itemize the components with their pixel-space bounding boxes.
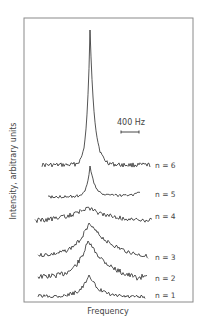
series-labels: n = 6n = 5n = 4n = 3n = 2n = 1 [155, 161, 176, 300]
trace-n5 [48, 166, 140, 198]
scale-bar-label: 400 Hz [117, 118, 145, 127]
series-label: n = 4 [155, 212, 176, 221]
x-axis-label: Frequency [87, 307, 129, 316]
spectra-traces [35, 30, 152, 299]
spectra-chart: n = 6n = 5n = 4n = 3n = 2n = 1 400 Hz Fr… [0, 0, 201, 335]
series-label: n = 5 [155, 190, 176, 199]
trace-n4 [35, 207, 152, 223]
series-label: n = 6 [155, 161, 176, 170]
trace-n6 [42, 30, 150, 167]
scale-bar [121, 131, 139, 134]
series-label: n = 2 [155, 274, 176, 283]
series-label: n = 3 [155, 253, 176, 262]
y-axis-label: Intensity, arbitrary units [9, 123, 18, 220]
trace-n3 [38, 223, 148, 258]
trace-n2 [38, 241, 147, 280]
series-label: n = 1 [155, 291, 176, 300]
trace-n1 [38, 275, 145, 299]
